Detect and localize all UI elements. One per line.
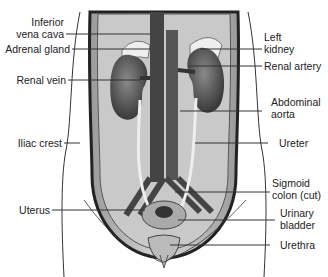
label-line: Adrenal gland xyxy=(5,43,70,55)
label-line: Inferior xyxy=(8,16,64,28)
label-line: Renal vein xyxy=(16,74,66,86)
label-urethra: Urethra xyxy=(280,239,315,251)
label-line: Uterus xyxy=(19,204,50,216)
label-line: vena cava xyxy=(8,28,64,40)
label-inferior-vena-cava: Inferior vena cava xyxy=(8,16,64,40)
label-line: colon (cut) xyxy=(272,189,321,201)
label-line: Sigmoid xyxy=(272,177,321,189)
abdominal-aorta xyxy=(166,30,178,180)
label-line: Urinary xyxy=(280,207,315,219)
label-uterus: Uterus xyxy=(4,204,50,216)
label-ureter: Ureter xyxy=(279,137,308,149)
label-renal-artery: Renal artery xyxy=(264,60,321,72)
label-sigmoid-colon: Sigmoid colon (cut) xyxy=(272,177,321,201)
label-urinary-bladder: Urinary bladder xyxy=(280,207,315,231)
label-line: kidney xyxy=(264,43,294,55)
label-adrenal-gland: Adrenal gland xyxy=(0,43,70,55)
label-iliac-crest: Iliac crest xyxy=(4,137,62,149)
inferior-vena-cava xyxy=(150,12,164,182)
label-line: bladder xyxy=(280,219,315,231)
label-line: Left xyxy=(264,31,294,43)
label-abdominal-aorta: Abdominal aorta xyxy=(271,96,321,120)
label-renal-vein: Renal vein xyxy=(4,74,66,86)
label-line: Urethra xyxy=(280,239,315,251)
label-line: Abdominal xyxy=(271,96,321,108)
label-line: Renal artery xyxy=(264,60,321,72)
label-line: aorta xyxy=(271,108,321,120)
label-line: Ureter xyxy=(279,137,308,149)
label-line: Iliac crest xyxy=(18,137,62,149)
label-left-kidney: Left kidney xyxy=(264,31,294,55)
